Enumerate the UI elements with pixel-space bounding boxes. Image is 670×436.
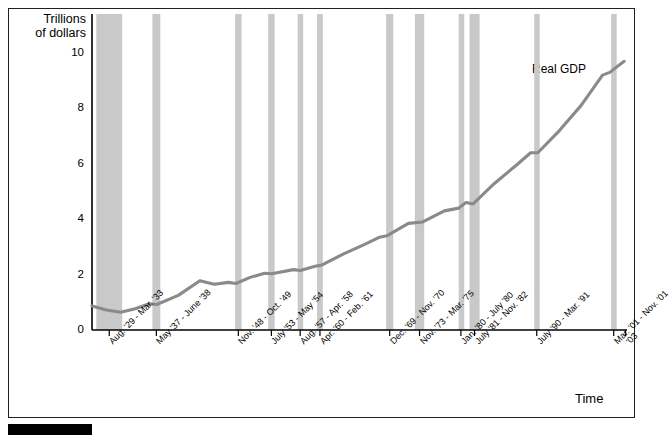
recession-bands-group xyxy=(96,14,616,330)
y-axis-tick-label: 2 xyxy=(58,268,84,280)
recession-band xyxy=(415,14,424,330)
recession-band xyxy=(268,14,274,330)
real-gdp-line xyxy=(92,61,624,312)
recession-band xyxy=(152,14,160,330)
recession-band xyxy=(534,14,540,330)
recession-band xyxy=(611,14,617,330)
axes-group xyxy=(92,14,627,330)
y-axis-tick-label: 4 xyxy=(58,212,84,224)
recession-band xyxy=(298,14,304,330)
y-axis-tick-label: 0 xyxy=(58,323,84,335)
y-axis-tick-label: 6 xyxy=(58,157,84,169)
recession-band xyxy=(470,14,480,330)
recession-band xyxy=(386,14,393,330)
recession-band xyxy=(459,14,465,330)
recession-band xyxy=(317,14,323,330)
recession-band xyxy=(96,14,122,330)
y-axis-tick-label: 10 xyxy=(58,46,84,58)
y-axis-tick-label: 8 xyxy=(58,101,84,113)
